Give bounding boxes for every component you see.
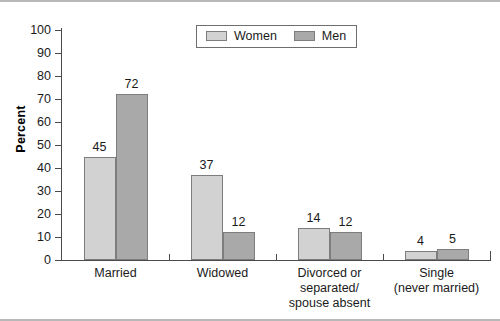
legend-entry-women: Women <box>206 30 277 43</box>
y-axis-tick-label: 60 <box>0 116 51 129</box>
x-axis-end-tick <box>490 251 491 261</box>
legend-label-men: Men <box>322 30 346 43</box>
y-axis-tick-label: 0 <box>0 254 51 267</box>
legend-swatch-women-icon <box>206 31 227 41</box>
bar-value-label: 5 <box>429 233 477 246</box>
bar-men-0 <box>116 94 148 260</box>
legend-swatch-men-icon <box>294 31 315 41</box>
legend-entry-men: Men <box>294 30 346 43</box>
bar-women-2 <box>298 228 330 260</box>
bar-women-0 <box>84 157 116 261</box>
bar-chart-figure: Percent 1009080706050403020100 457237121… <box>0 0 500 321</box>
bar-women-3 <box>405 251 437 260</box>
x-axis-category-label: Married <box>56 266 175 281</box>
y-axis-tick-label: 40 <box>0 162 51 175</box>
y-axis-tick-label: 20 <box>0 208 51 221</box>
x-axis-category-label: Widowed <box>163 266 282 281</box>
bar-value-label: 72 <box>108 78 156 91</box>
bar-men-3 <box>437 249 469 261</box>
y-axis-tick-label: 10 <box>0 231 51 244</box>
y-axis-tick-label: 80 <box>0 70 51 83</box>
x-axis-category-label: Single (never married) <box>377 266 496 296</box>
bar-value-label: 37 <box>183 159 231 172</box>
legend-label-women: Women <box>234 30 277 43</box>
bar-value-label: 12 <box>215 216 263 229</box>
bar-men-2 <box>330 232 362 260</box>
bar-men-1 <box>223 232 255 260</box>
y-axis-tick-label: 70 <box>0 93 51 106</box>
plot-area: 45723712141245 <box>62 30 490 260</box>
y-axis-tick-label: 100 <box>0 24 51 37</box>
x-axis-category-label: Divorced or separated/ spouse absent <box>270 266 389 310</box>
chart-legend: Women Men <box>196 25 357 48</box>
y-axis-tick-label: 30 <box>0 185 51 198</box>
bar-value-label: 12 <box>322 216 370 229</box>
y-axis-tick-label: 90 <box>0 47 51 60</box>
y-axis-tick-label: 50 <box>0 139 51 152</box>
